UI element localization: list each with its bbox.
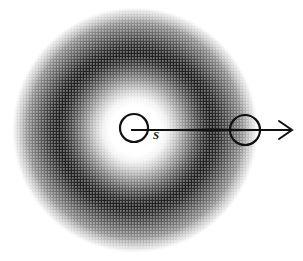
source-label: S <box>153 129 159 141</box>
figure-canvas: S <box>0 0 303 261</box>
figure-root: S <box>0 0 303 261</box>
